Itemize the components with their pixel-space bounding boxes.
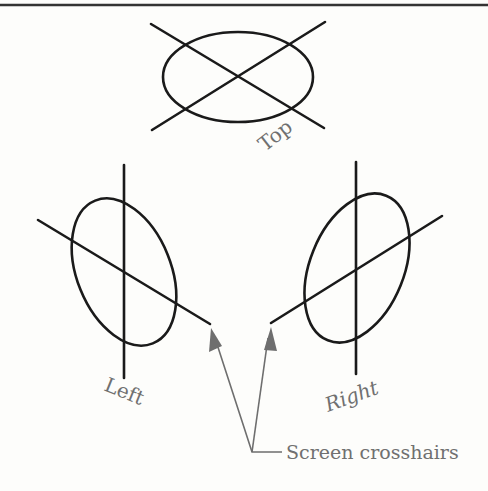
arrowhead-right-icon [264, 327, 277, 351]
right-label: Right [321, 375, 383, 417]
callout-label: Screen crosshairs [286, 441, 459, 463]
callout-leader-right [252, 338, 268, 452]
arrowhead-left-icon [209, 328, 222, 352]
top-view: Top [151, 22, 325, 156]
left-view: Left [38, 165, 210, 410]
diagram-canvas: Top Left Right Screen crosshairs [0, 0, 488, 491]
right-view: Right [271, 162, 442, 417]
left-label: Left [101, 372, 148, 409]
callout-leader-left [215, 338, 282, 452]
